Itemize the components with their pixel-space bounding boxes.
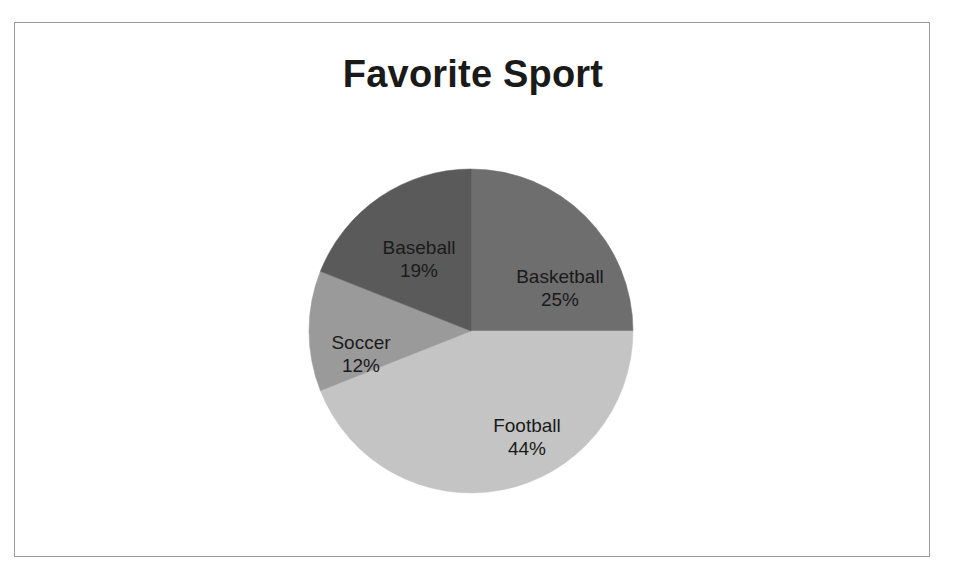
pie-slice-group [309, 169, 633, 493]
chart-frame: Favorite Sport Basketball25%Football44%S… [14, 22, 930, 557]
pie-slice-basketball[interactable] [471, 169, 633, 331]
pie-chart-svg [15, 23, 931, 558]
pie-chart: Basketball25%Football44%Soccer12%Basebal… [15, 23, 931, 558]
